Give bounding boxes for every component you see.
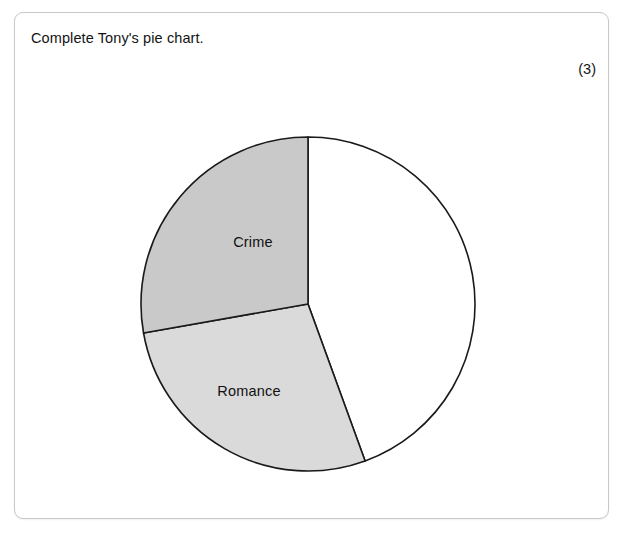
pie-chart-area: Crime Romance xyxy=(15,13,610,520)
pie-slice-crime xyxy=(141,137,308,333)
pie-label-crime: Crime xyxy=(233,234,273,250)
clipped-header-text xyxy=(0,0,624,11)
pie-chart: Crime Romance xyxy=(133,131,483,481)
question-card: Complete Tony's pie chart. (3) Crime Rom… xyxy=(14,12,609,519)
pie-label-romance: Romance xyxy=(217,383,280,399)
